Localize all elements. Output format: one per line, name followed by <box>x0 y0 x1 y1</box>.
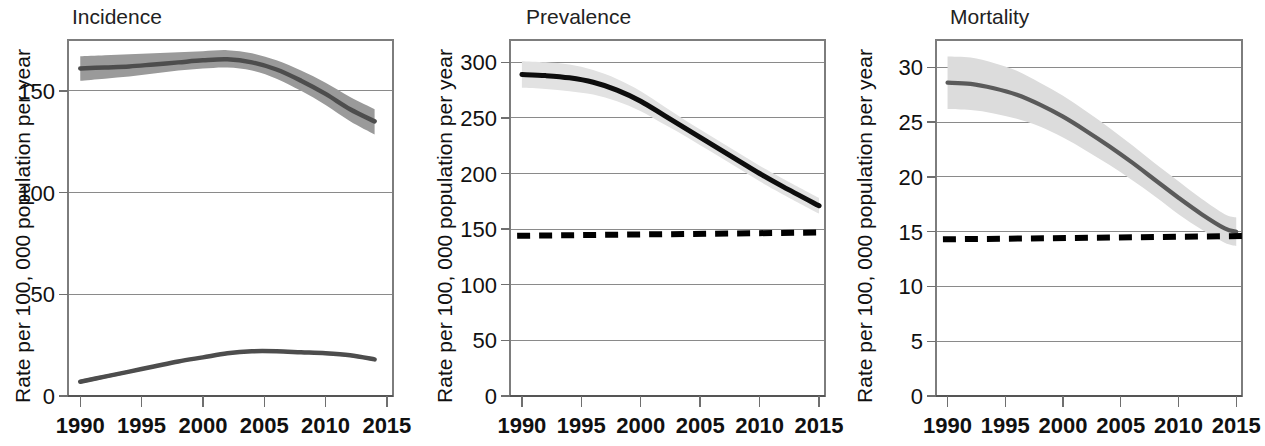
series-line-lower-incidence <box>80 351 374 382</box>
panel-incidence: IncidenceRate per 100, 000 population pe… <box>0 0 430 446</box>
x-tick-label: 2015 <box>362 413 411 438</box>
x-tick-label: 1995 <box>557 413 606 438</box>
y-axis-label: Rate per 100, 000 population per year <box>433 49 456 403</box>
x-tick-label: 1990 <box>497 413 546 438</box>
y-tick-label: 20 <box>899 165 923 190</box>
y-tick-label: 15 <box>899 220 923 245</box>
panel-mortality: MortalityRate per 100, 000 population pe… <box>850 0 1265 446</box>
y-tick-label: 0 <box>485 384 497 409</box>
y-tick-label: 200 <box>460 162 497 187</box>
x-tick-label: 1995 <box>117 413 166 438</box>
panel-prevalence: PrevalenceRate per 100, 000 population p… <box>430 0 850 446</box>
x-tick-label: 2000 <box>1039 413 1088 438</box>
x-tick-label: 2010 <box>1154 413 1203 438</box>
x-tick-label: 2000 <box>178 413 227 438</box>
x-tick-label: 2015 <box>795 413 844 438</box>
reference-line <box>517 232 825 235</box>
x-axis-ticks: 199019952000200520102015 <box>56 396 412 438</box>
x-tick-label: 1990 <box>56 413 105 438</box>
chart-mortality: MortalityRate per 100, 000 population pe… <box>850 0 1265 446</box>
x-tick-label: 2005 <box>1096 413 1145 438</box>
gridlines <box>68 91 393 294</box>
x-tick-label: 2005 <box>240 413 289 438</box>
y-tick-label: 10 <box>899 274 923 299</box>
y-axis-ticks: 050100150200250300 <box>460 50 510 409</box>
y-tick-label: 50 <box>31 282 55 307</box>
panel-title: Incidence <box>72 5 162 28</box>
x-axis-ticks: 199019952000200520102015 <box>923 396 1261 438</box>
y-axis-label: Rate per 100, 000 population per year <box>853 49 876 403</box>
x-tick-label: 2000 <box>616 413 665 438</box>
y-tick-label: 50 <box>473 328 497 353</box>
x-tick-label: 1990 <box>923 413 972 438</box>
chart-prevalence: PrevalenceRate per 100, 000 population p… <box>430 0 850 446</box>
plot-frame <box>68 40 393 396</box>
x-tick-label: 2005 <box>676 413 725 438</box>
x-tick-label: 2010 <box>301 413 350 438</box>
y-tick-label: 30 <box>899 55 923 80</box>
y-tick-label: 150 <box>460 217 497 242</box>
plot-frame <box>510 40 825 396</box>
x-axis-ticks: 199019952000200520102015 <box>497 396 843 438</box>
figure-container: IncidenceRate per 100, 000 population pe… <box>0 0 1265 446</box>
y-tick-label: 300 <box>460 50 497 75</box>
confidence-band-mortality <box>948 56 1237 246</box>
y-axis-ticks: 051015202530 <box>899 55 936 409</box>
x-tick-label: 2010 <box>735 413 784 438</box>
reference-line <box>943 236 1242 239</box>
y-tick-label: 250 <box>460 106 497 131</box>
confidence-band-prevalence <box>522 61 819 213</box>
x-tick-label: 1995 <box>981 413 1030 438</box>
y-tick-label: 0 <box>911 384 923 409</box>
confidence-band-upper-incidence <box>80 50 374 134</box>
chart-incidence: IncidenceRate per 100, 000 population pe… <box>0 0 430 446</box>
y-tick-label: 100 <box>460 273 497 298</box>
x-tick-label: 2015 <box>1212 413 1261 438</box>
y-tick-label: 100 <box>18 181 55 206</box>
y-tick-label: 150 <box>18 79 55 104</box>
panel-title: Prevalence <box>526 5 631 28</box>
gridlines <box>510 62 825 340</box>
y-tick-label: 5 <box>911 329 923 354</box>
panel-title: Mortality <box>950 5 1030 28</box>
y-tick-label: 0 <box>43 384 55 409</box>
y-tick-label: 25 <box>899 110 923 135</box>
